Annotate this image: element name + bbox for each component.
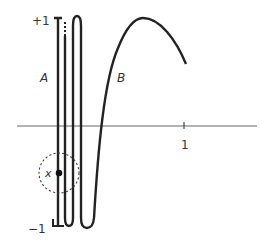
- y-top-label: +1: [32, 14, 50, 28]
- curve-a-label: A: [39, 71, 48, 85]
- curve-b-label: B: [117, 71, 125, 85]
- curve-a-top-bracket: [54, 18, 62, 226]
- y-bottom-label: −1: [28, 222, 46, 236]
- x-tick-label: 1: [181, 138, 189, 152]
- point-x-dot: [56, 170, 63, 177]
- curve-b: [94, 18, 186, 218]
- curve-a: [65, 16, 94, 228]
- point-x-label: x: [44, 167, 52, 180]
- oscillation-diagram: 1 +1 −1 A B x: [0, 0, 270, 245]
